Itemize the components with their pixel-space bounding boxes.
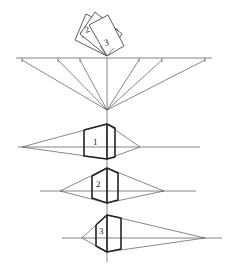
fan-ray bbox=[58, 60, 107, 110]
fan-ray bbox=[22, 60, 107, 110]
box-1-label: 1 bbox=[93, 137, 98, 147]
box-3: 3 bbox=[62, 215, 222, 252]
box-1-outline bbox=[84, 124, 115, 159]
fan-ray bbox=[80, 60, 107, 110]
box-1: 1 bbox=[18, 124, 200, 159]
box-2-label: 2 bbox=[96, 179, 101, 189]
perspective-diagram: 1 2 3 bbox=[0, 0, 233, 271]
box-3-label: 3 bbox=[99, 226, 104, 236]
box-2: 2 bbox=[40, 168, 196, 203]
top-horizon-fan bbox=[16, 46, 212, 262]
rotating-cards: 1 2 3 bbox=[75, 12, 124, 56]
fan-ray bbox=[107, 60, 205, 110]
vp-line bbox=[107, 124, 140, 147]
